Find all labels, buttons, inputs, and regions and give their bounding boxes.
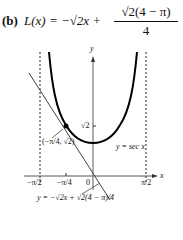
x-axis-arrow-icon [152,174,158,178]
x-axis-label: x [160,171,164,180]
tangent-label: y = −√2x + √2(4 − π)/4 [37,193,114,202]
neg-pi-4-label: −π/4 [57,178,72,187]
point-label: (−π/4, √2) [42,137,75,146]
y-axis-label: y [90,44,94,53]
neg-pi-2-label: −π/2 [27,178,42,187]
sqrt2-tick-label: √2 [81,121,89,130]
zero-label: 0 [86,178,90,187]
tangent-point [64,124,69,129]
curve-label: y = sec x [116,142,145,151]
y-axis-arrow-icon [91,56,95,62]
pi-2-label: π/2 [141,178,151,187]
